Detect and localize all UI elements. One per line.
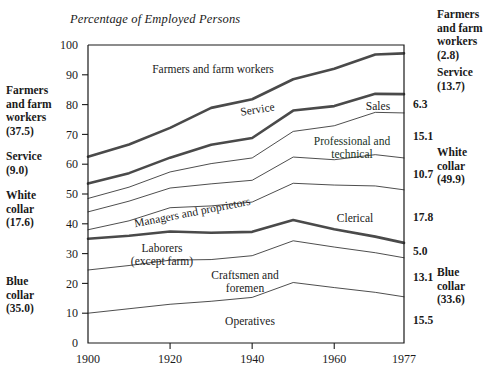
x-tick-label-1920: 1920 [158,352,182,366]
series-label-laborers-line1: Laborers [142,242,183,254]
y-tick-label-20: 20 [66,277,78,291]
band-value-sales: 6.3 [413,98,428,110]
y-tick-label-0: 0 [72,336,78,350]
y-tick-label-90: 90 [66,68,78,82]
band-value-professional-and-technical: 15.1 [413,130,433,142]
right-band-values: 6.315.110.717.85.013.115.5 [413,98,433,326]
series-label-craftsmen-line1: Craftsmen and [211,269,279,281]
y-tick-label-30: 30 [66,247,78,261]
series-label-managers-and-proprietors: Managers and proprietors [133,195,252,230]
inline-series-labels: Farmers and farm workersServiceSalesProf… [131,63,391,328]
x-tick-label-1960: 1960 [322,352,346,366]
employment-composition-chart: 1009080706050403020100 19001920194019601… [0,0,498,378]
y-tick-label-50: 50 [66,187,78,201]
series-label-farmers-and-farm-workers: Farmers and farm workers [152,63,274,75]
series-label-service: Service [239,100,275,117]
band-value-managers-and-proprietors: 10.7 [413,168,433,180]
series-label-professional-and-technical-line1: Professional and [314,135,391,147]
x-tick-label-1940: 1940 [240,352,264,366]
y-axis-ticks: 1009080706050403020100 [60,38,88,350]
y-tick-label-80: 80 [66,98,78,112]
series-label-operatives: Operatives [225,315,275,328]
band-value-operatives: 15.5 [413,314,433,326]
band-value-craftsmen-and-foremen: 13.1 [413,271,433,283]
y-tick-label-70: 70 [66,128,78,142]
band-value-clerical: 17.8 [413,211,433,223]
series-label-sales: Sales [366,100,391,112]
series-label-craftsmen-line2: foremen [226,282,265,294]
y-tick-label-40: 40 [66,217,78,231]
x-axis-ticks: 19001920194019601977 [76,343,416,366]
series-label-professional-and-technical-line2: technical [331,148,373,160]
series-label-clerical: Clerical [337,212,373,224]
y-tick-label-60: 60 [66,157,78,171]
y-tick-label-10: 10 [66,306,78,320]
y-tick-label-100: 100 [60,38,78,52]
x-tick-label-1900: 1900 [76,352,100,366]
band-value-laborers-except-farm: 5.0 [413,245,428,257]
chart-root: Percentage of Employed Persons Farmers a… [0,0,498,378]
x-tick-label-1977: 1977 [392,352,416,366]
series-label-laborers-line2: (except farm) [131,255,193,268]
